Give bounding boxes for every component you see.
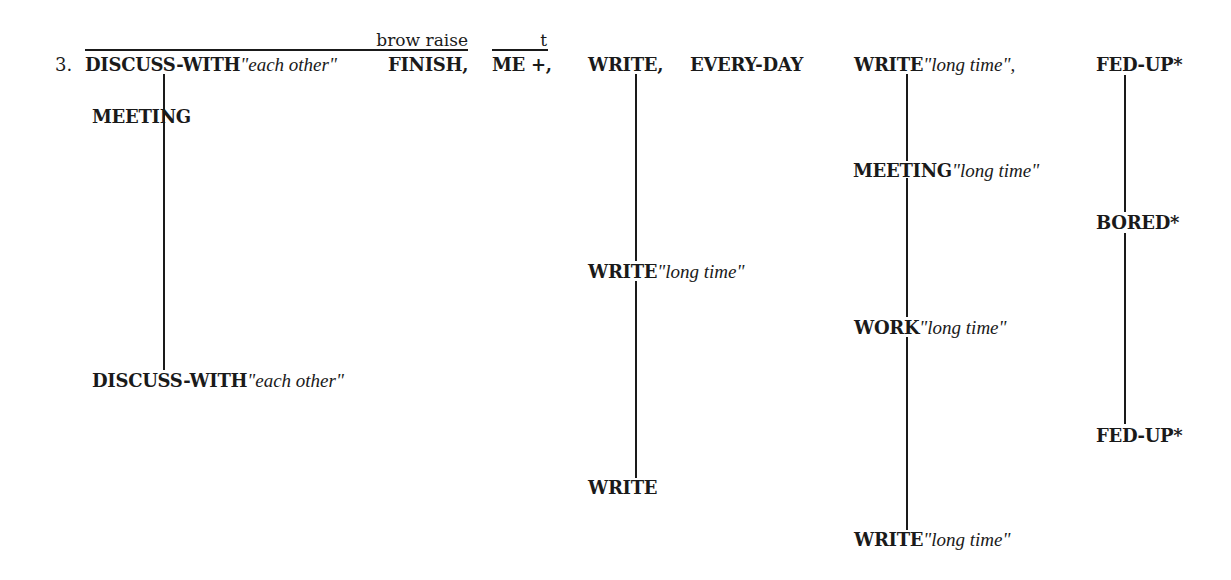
gloss-write-bottom: WRITE [588,477,657,499]
gloss-fed-up: FED-UP* [1096,54,1182,76]
brow-raise-overline [85,49,468,51]
gloss-finish: FINISH, [388,54,468,76]
fed-up-column-line-1 [1124,75,1126,212]
gloss-word: MEETING [853,160,952,181]
write-column-line [635,74,637,261]
topic-overline [492,49,548,51]
gloss-meeting: MEETING [92,106,191,128]
gloss-modifier: "long time" [923,529,1010,550]
example-number: 3. [55,54,72,76]
gloss-word: WRITE [588,261,657,282]
write-column-line-lower [635,281,637,478]
gloss-every-day: EVERY-DAY [690,54,803,76]
gloss-write-long-time-2: WRITE"long time" [588,261,744,283]
gloss-modifier: "long time", [923,54,1015,75]
gloss-word: DISCUSS-WITH [92,370,247,391]
brow-raise-annotation: brow raise [360,30,468,50]
write-long-time-column-line-1 [906,74,908,161]
gloss-modifier: "each other" [240,54,337,75]
gloss-word: DISCUSS-WITH [85,54,240,75]
gloss-modifier: "long time" [657,261,744,282]
write-long-time-column-line-3 [906,337,908,530]
gloss-me: ME +, [492,54,552,76]
gloss-word: WORK [854,317,919,338]
gloss-modifier: "long time" [952,160,1039,181]
gloss-word: WRITE [854,529,923,550]
gloss-modifier: "long time" [919,317,1006,338]
gloss-discuss-with: DISCUSS-WITH"each other" [85,54,337,76]
gloss-fed-up-bottom: FED-UP* [1096,425,1182,447]
gloss-word: WRITE [854,54,923,75]
fed-up-column-line-2 [1124,233,1126,424]
write-long-time-column-line-2 [906,178,908,317]
gloss-write-long-time: WRITE"long time", [854,54,1015,76]
gloss-work-long-time: WORK"long time" [854,317,1007,339]
gloss-bored: BORED* [1096,212,1179,234]
gloss-modifier: "each other" [247,370,344,391]
gloss-meeting-long-time: MEETING"long time" [853,160,1039,182]
gloss-write-long-time-bottom: WRITE"long time" [854,529,1010,551]
topic-annotation: t [520,30,547,50]
gloss-write: WRITE, [588,54,663,76]
gloss-discuss-with-each-other: DISCUSS-WITH"each other" [92,370,344,392]
